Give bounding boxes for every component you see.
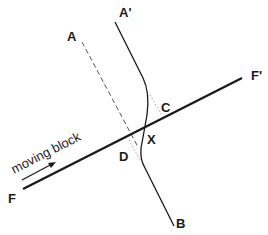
fault-offset-diagram: A' A F' C X D F B moving block — [0, 0, 268, 235]
moving-block-caption: moving block — [9, 129, 84, 177]
dotted-line-d — [129, 140, 140, 160]
label-a: A — [67, 29, 77, 44]
arrow-head-icon — [48, 162, 56, 168]
fault-line-f — [23, 78, 242, 189]
label-f: F — [8, 191, 16, 206]
label-f-prime: F' — [251, 68, 262, 83]
dotted-line-c — [150, 95, 161, 114]
original-line-a-dashed — [82, 42, 138, 147]
diagram-canvas: A' A F' C X D F B moving block — [0, 0, 268, 235]
label-d: D — [119, 149, 128, 164]
label-a-prime: A' — [119, 5, 131, 20]
label-x: X — [147, 132, 156, 147]
label-b: B — [176, 216, 185, 231]
deformed-line-a-prime-b — [115, 22, 174, 226]
label-c: C — [161, 100, 171, 115]
